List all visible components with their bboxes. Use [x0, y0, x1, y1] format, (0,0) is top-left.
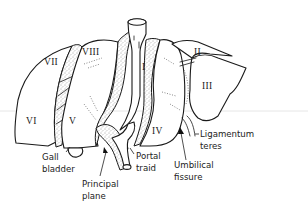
ligamentum-teres-label-line2: teres: [200, 141, 222, 151]
annotation-portal-triad: Portal traid: [130, 148, 161, 173]
ligamentum-teres-label-line1: Ligamentum: [200, 129, 254, 139]
principal-plane-label-line2: plane: [82, 191, 106, 201]
segment-label-iv: IV: [152, 126, 163, 136]
arrowhead-icon: [103, 147, 108, 153]
gall-bladder-shape: [68, 148, 83, 157]
umbilical-fissure-label-line1: Umbilical: [174, 160, 214, 170]
portal-triad-label-line1: Portal: [136, 151, 161, 161]
segment-label-vi: VI: [26, 116, 37, 126]
segment-label-viii: VIII: [82, 47, 100, 57]
portal-triad-label-line2: traid: [136, 163, 156, 173]
segment-label-v: V: [69, 116, 76, 126]
segment-label-vii: VII: [44, 57, 58, 67]
umbilical-fissure-label-line2: fissure: [174, 172, 202, 182]
gall-bladder-label-line2: bladder: [42, 164, 75, 174]
principal-plane-label-line1: Principal: [82, 179, 119, 189]
liver-segments-diagram: VIII VII VI V I IV II III Gall bladder P…: [0, 0, 308, 211]
segment-label-ii: II: [194, 47, 201, 57]
ligamentum-teres-shape: [182, 116, 195, 136]
portal-triad-vessel: [96, 122, 135, 170]
segment-label-iii: III: [202, 81, 212, 91]
annotation-ligamentum-teres: Ligamentum teres: [195, 129, 254, 151]
annotation-principal-plane: Principal plane: [82, 147, 119, 201]
gall-bladder-label-line1: Gall: [42, 152, 59, 162]
segment-label-i: I: [142, 62, 145, 72]
